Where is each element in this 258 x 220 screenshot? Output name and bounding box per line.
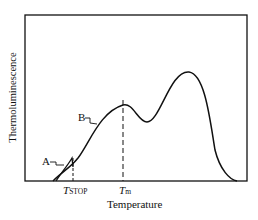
tstop-sub: STOP xyxy=(69,187,87,196)
tm-tick-label: Tm xyxy=(119,184,131,196)
label-b: B xyxy=(78,111,85,123)
plot-frame xyxy=(25,15,247,181)
y-axis-label: Thermoluminescence xyxy=(7,48,18,148)
x-axis-label: Temperature xyxy=(107,198,162,210)
b-arrow xyxy=(85,118,97,124)
tstop-tick-label: TSTOP xyxy=(63,184,87,196)
curve-a xyxy=(56,158,73,181)
label-a: A xyxy=(42,155,50,167)
curve-b xyxy=(53,72,237,181)
tm-sub: m xyxy=(125,187,131,196)
a-arrow xyxy=(50,162,64,165)
